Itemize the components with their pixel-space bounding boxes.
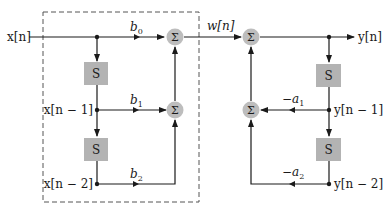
delay-block-y2: S	[316, 138, 341, 161]
delay-block-x1: S	[84, 62, 108, 85]
gain-a1-label: −a1	[282, 92, 304, 108]
gain-b2-label: b2	[130, 167, 143, 183]
gain-a2-label: −a2	[282, 165, 304, 181]
diagram-svg: x[n] b0 S x[n − 1] b1 S x[n − 2] b2 Σ Σ …	[0, 0, 388, 210]
adder-fb-1: Σ	[243, 102, 260, 119]
block-diagram: x[n] b0 S x[n − 1] b1 S x[n − 2] b2 Σ Σ …	[0, 0, 388, 210]
svg-text:S: S	[324, 143, 332, 157]
y-n-1-label: y[n − 1]	[333, 103, 383, 117]
y-n-2-label: y[n − 2]	[333, 177, 383, 191]
delay-block-y1: S	[316, 64, 341, 87]
gain-b0-label: b0	[130, 20, 143, 36]
output-label: y[n]	[357, 30, 382, 44]
adder-fb-0: Σ	[243, 29, 260, 46]
svg-text:S: S	[92, 143, 100, 157]
svg-text:S: S	[324, 69, 332, 83]
adder-ff-1: Σ	[167, 102, 184, 119]
svg-text:S: S	[92, 67, 100, 81]
svg-text:Σ: Σ	[247, 31, 255, 44]
x-n-2-label: x[n − 2]	[44, 177, 93, 191]
svg-text:Σ: Σ	[247, 104, 255, 117]
x-n-1-label: x[n − 1]	[44, 103, 93, 117]
w-n-label: w[n]	[207, 19, 235, 33]
svg-text:Σ: Σ	[171, 31, 179, 44]
input-label: x[n]	[7, 30, 31, 44]
delay-block-x2: S	[84, 138, 108, 161]
adder-ff-0: Σ	[167, 29, 184, 46]
gain-b1-label: b1	[130, 93, 143, 109]
svg-text:Σ: Σ	[171, 104, 179, 117]
